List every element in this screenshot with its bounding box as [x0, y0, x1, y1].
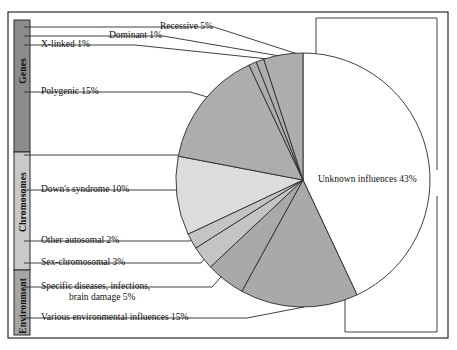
slice-label-polygenic: Polygenic 15% — [41, 86, 99, 97]
category-bar-genes — [14, 20, 30, 152]
slice-label-dominant: Dominant 1% — [109, 30, 162, 41]
slice-label-specific-diseases-line2: brain damage 5% — [69, 292, 135, 303]
slice-label-unknown-influences: Unknown influences 43% — [318, 174, 417, 185]
slice-label-downs-syndrome: Down's syndrome 10% — [41, 184, 129, 195]
slice-label-recessive: Recessive 5% — [160, 21, 213, 32]
category-label-environment: Environment — [18, 278, 28, 334]
category-label-chromosomes: Chromosomes — [18, 172, 28, 232]
figure-canvas: Genes Chromosomes Environment Recessive … — [0, 0, 457, 350]
slice-label-other-autosomal: Other autosomal 2% — [41, 235, 119, 246]
slice-label-xlinked: X-linked 1% — [41, 39, 90, 50]
category-label-genes: Genes — [18, 58, 28, 84]
slice-label-specific-diseases-line1: Specific diseases, infections, — [41, 281, 150, 292]
slice-label-various-environmental: Various environmental influences 15% — [41, 312, 188, 323]
leader-downs-top — [24, 155, 186, 163]
slice-label-sex-chromosomal: Sex-chromosomal 3% — [41, 257, 125, 268]
